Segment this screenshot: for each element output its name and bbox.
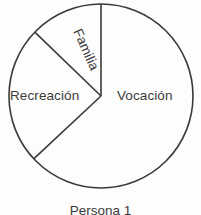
pie-chart-figure: Vocación Recreación Familia Persona 1 <box>0 0 201 215</box>
pie-slice-label-recreacion: Recreación <box>10 88 79 103</box>
figure-caption: Persona 1 <box>0 203 201 215</box>
pie-slice-label-vocacion: Vocación <box>117 88 173 103</box>
pie-chart-graphic <box>0 0 201 215</box>
